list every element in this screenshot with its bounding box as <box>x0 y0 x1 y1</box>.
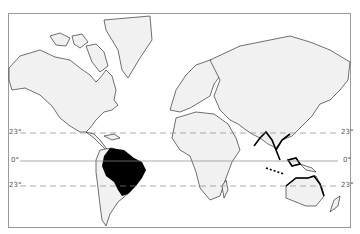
greenland <box>104 16 152 78</box>
label-tropic-capricorn-right: 23° <box>341 182 353 189</box>
label-tropic-capricorn-left: 23° <box>9 182 21 189</box>
label-tropic-cancer-right: 23° <box>341 129 353 136</box>
africa <box>172 112 240 200</box>
label-equator-left: 0° <box>11 157 19 164</box>
world-map <box>0 0 360 234</box>
label-equator-right: 0° <box>343 157 351 164</box>
label-tropic-cancer-left: 23° <box>9 129 21 136</box>
